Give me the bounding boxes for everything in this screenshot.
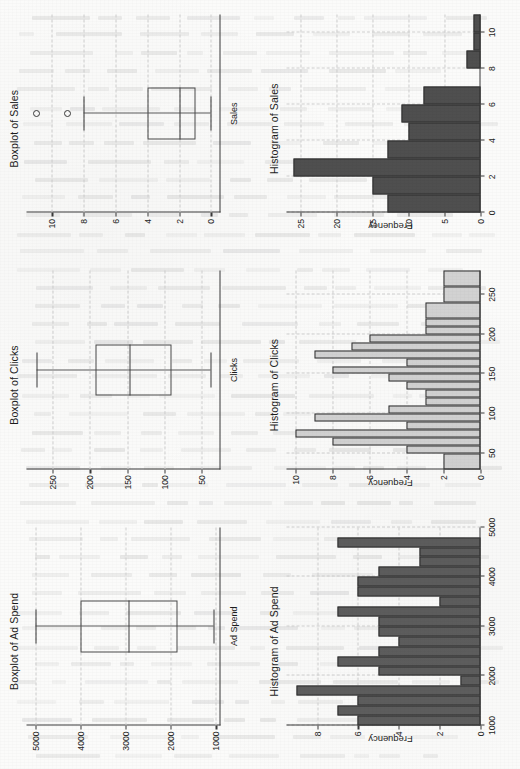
y-axis-tick: [210, 212, 211, 216]
y-axis-tick-label: 20: [331, 218, 341, 228]
y-axis-tick-label: 8: [78, 218, 88, 223]
y-axis-tick-label: 4: [401, 475, 411, 480]
x-axis-tick-label: 6: [486, 102, 496, 107]
boxplot-median-line: [128, 600, 129, 652]
x-axis-tick-label: 4: [486, 138, 496, 143]
panel-title: Boxplot of Clicks: [7, 256, 19, 512]
histogram-bar: [460, 675, 480, 685]
rotated-figure-canvas: Boxplot of Ad Spend 10002000300040005000…: [0, 0, 520, 769]
x-axis-tick: [480, 674, 484, 675]
panel-grid: Boxplot of Ad Spend 10002000300040005000…: [0, 0, 520, 769]
y-axis-tick: [398, 725, 399, 729]
histogram-bar: [408, 122, 480, 140]
panel-title: Histogram of Sales: [267, 0, 279, 256]
y-axis-tick-label: 0: [475, 731, 485, 736]
y-axis-tick: [170, 725, 171, 729]
x-axis-tick: [480, 372, 484, 373]
boxplot-canvas: 0246810Sales: [26, 14, 220, 212]
plot-area-histogram-clicks: 024681050100150200250: [286, 270, 480, 468]
x-axis-tick-label: 4000: [486, 567, 496, 586]
histogram-bar: [401, 104, 480, 122]
y-axis-tick-label: 2000: [165, 731, 175, 750]
y-axis-tick: [80, 725, 81, 729]
gridline-vertical: [286, 31, 480, 32]
x-axis-tick: [480, 211, 484, 212]
y-axis-tick-label: 5000: [30, 731, 40, 750]
gridline-horizontal: [215, 527, 216, 725]
panel-boxplot-sales: Boxplot of Sales 0246810Sales: [0, 0, 260, 256]
histogram-bar: [425, 318, 480, 326]
histogram-canvas: 0246810002000300040005000: [286, 527, 480, 725]
boxplot-whisker-cap: [36, 352, 37, 386]
x-axis-line: [479, 270, 480, 468]
y-axis-tick-label: 6: [364, 475, 374, 480]
histogram-bar: [351, 342, 480, 350]
y-axis-tick-label: 4000: [75, 731, 85, 750]
y-axis-tick: [115, 212, 116, 216]
plot-area-boxplot-clicks: 50100150200250Clicks: [26, 270, 220, 468]
histogram-bar: [357, 576, 480, 586]
histogram-bar: [296, 685, 480, 695]
histogram-bar: [337, 705, 480, 715]
histogram-bar: [388, 374, 480, 382]
x-axis-tick: [480, 67, 484, 68]
boxplot-whisker-cap: [83, 96, 84, 130]
x-axis-tick-label: 250: [486, 287, 496, 301]
y-axis-tick-label: 6: [352, 731, 362, 736]
y-axis-tick: [336, 212, 337, 216]
histogram-bar: [337, 606, 480, 616]
histogram-bar: [378, 666, 480, 676]
y-axis-tick: [444, 212, 445, 216]
y-axis-tick: [372, 212, 373, 216]
x-axis-tick-label: 0: [486, 210, 496, 215]
x-axis-tick-label: 50: [486, 448, 496, 458]
y-axis-tick: [51, 212, 52, 216]
histogram-bar: [425, 302, 480, 318]
x-axis-tick: [480, 31, 484, 32]
panel-histogram-sales: Histogram of Sales Frequency 05101520250…: [260, 0, 520, 256]
y-axis-tick-label: 0: [475, 218, 485, 223]
x-axis-tick: [480, 103, 484, 104]
panel-histogram-ad-spend: Histogram of Ad Spend Frequency 02468100…: [260, 513, 520, 769]
y-axis-tick-label: 6: [110, 218, 120, 223]
histogram-bar: [439, 596, 480, 606]
y-axis-tick-label: 10: [46, 218, 56, 228]
gridline-horizontal: [336, 14, 337, 212]
y-axis-label: Frequency: [368, 733, 412, 744]
histogram-bar: [314, 350, 480, 358]
histogram-canvas: 05101520250246810: [286, 14, 480, 212]
histogram-bar: [425, 397, 480, 405]
y-axis-tick-label: 15: [367, 218, 377, 228]
y-axis-tick: [35, 725, 36, 729]
y-axis-tick: [317, 725, 318, 729]
y-axis-tick-label: 250: [47, 475, 57, 489]
x-axis-line: [219, 270, 220, 468]
gridline-horizontal: [295, 270, 296, 468]
histogram-bar: [337, 656, 480, 666]
y-axis-line: [286, 468, 480, 469]
x-axis-tick-label: 2: [486, 174, 496, 179]
y-axis-tick-label: 25: [295, 218, 305, 228]
y-axis-tick: [300, 212, 301, 216]
histogram-bar: [369, 334, 480, 342]
boxplot-canvas: 10002000300040005000Ad Spend: [26, 527, 220, 725]
histogram-bar: [293, 158, 480, 176]
histogram-bar: [357, 695, 480, 705]
x-axis-tick: [480, 625, 484, 626]
y-axis-tick-label: 0: [205, 218, 215, 223]
x-axis-tick: [480, 139, 484, 140]
y-axis-tick-label: 200: [84, 475, 94, 489]
x-axis-tick: [480, 526, 484, 527]
y-axis-tick: [369, 469, 370, 473]
y-axis-tick-label: 150: [122, 475, 132, 489]
y-axis-tick: [357, 725, 358, 729]
y-axis-tick-label: 10: [403, 218, 413, 228]
plot-area-histogram-ad-spend: 0246810002000300040005000: [286, 527, 480, 725]
boxplot-median-line: [129, 344, 130, 396]
histogram-bar: [378, 646, 480, 656]
gridline-vertical: [286, 526, 480, 527]
y-axis-tick-label: 4: [142, 218, 152, 223]
histogram-bar: [378, 566, 480, 576]
figure-page: Boxplot of Ad Spend 10002000300040005000…: [0, 0, 520, 769]
boxplot-whisker-cap: [213, 609, 214, 643]
